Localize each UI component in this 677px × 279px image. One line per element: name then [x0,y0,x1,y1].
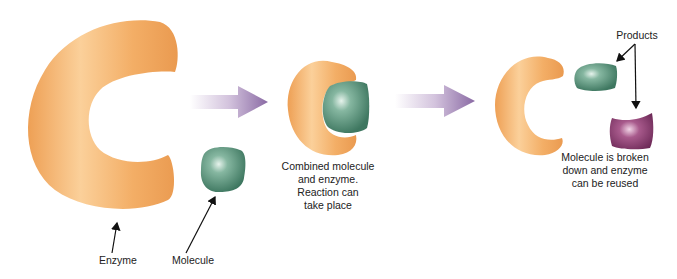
molecule-pointer-arrow [186,197,215,253]
products-label: Products [610,29,664,42]
broken-caption-line: down and enzyme [550,164,660,177]
substrate-molecule [201,147,246,192]
enzyme-pointer-arrow [112,223,117,253]
combined-caption-line: Reaction can [278,186,378,199]
enzyme-substrate-complex [288,61,370,156]
reaction-arrow-1 [190,86,268,118]
product-green [574,63,617,91]
combined-caption: Combined molecule and enzyme. Reaction c… [278,160,378,212]
combined-caption-line: and enzyme. [278,173,378,186]
enzyme-reused [495,56,564,155]
reaction-arrow-2 [395,85,475,117]
product-purple [610,113,654,149]
enzyme-large [28,20,178,209]
broken-caption: Molecule is broken down and enzyme can b… [550,151,660,190]
combined-caption-line: take place [278,199,378,212]
broken-caption-line: can be reused [550,177,660,190]
broken-caption-line: Molecule is broken [550,151,660,164]
enzyme-reaction-diagram [0,0,677,279]
molecule-label: Molecule [160,254,226,267]
enzyme-label: Enzyme [88,254,148,267]
products-pointer-arrow-green [617,44,635,61]
combined-caption-line: Combined molecule [278,160,378,173]
products-pointer-arrow-purple [635,44,636,108]
